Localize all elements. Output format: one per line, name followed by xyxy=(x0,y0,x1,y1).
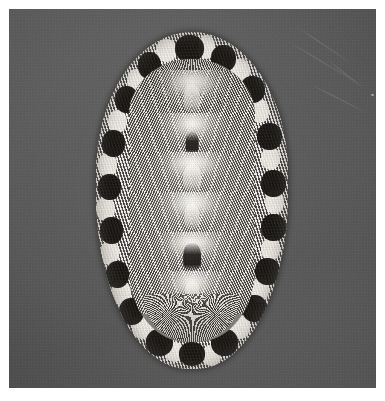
valve-tonal-overlay xyxy=(129,59,256,342)
margin-speck xyxy=(371,94,374,96)
girdle-dark-blotch xyxy=(98,174,121,201)
photographic-plate xyxy=(0,0,385,401)
girdle-dark-blotch xyxy=(257,123,282,150)
girdle-dark-blotch xyxy=(102,130,125,157)
photo-print-area xyxy=(9,9,376,388)
girdle-dark-blotch xyxy=(261,214,286,241)
chiton-specimen xyxy=(96,32,288,369)
girdle-dark-blotch xyxy=(261,170,286,197)
girdle-dark-blotch xyxy=(100,217,123,244)
girdle-light-blotch xyxy=(261,147,280,171)
girdle-dark-blotch xyxy=(255,258,280,285)
girdle-dark-blotch xyxy=(179,342,206,366)
valve-series xyxy=(129,59,256,342)
girdle-dark-blotch xyxy=(106,261,129,288)
